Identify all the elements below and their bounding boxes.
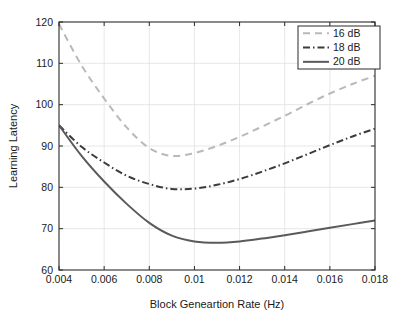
y-axis-title: Learning Latency <box>7 103 19 188</box>
y-tick-label: 90 <box>41 140 53 152</box>
legend-label-18-db: 18 dB <box>333 41 360 53</box>
legend-label-20-db: 20 dB <box>333 55 360 67</box>
x-axis-title: Block Geneartion Rate (Hz) <box>150 298 285 310</box>
x-tick-label: 0.016 <box>317 273 343 285</box>
y-tick-label: 80 <box>41 181 53 193</box>
y-tick-label: 60 <box>41 264 53 276</box>
x-tick-label: 0.012 <box>226 273 252 285</box>
y-tick-label: 120 <box>35 16 53 28</box>
y-tick-label: 100 <box>35 98 53 110</box>
chart-legend: 16 dB18 dB20 dB <box>298 26 380 69</box>
y-tick-label: 110 <box>36 57 53 69</box>
line-chart: 0.0040.0060.0080.010.0120.0140.0160.018 … <box>0 0 402 321</box>
x-tick-label: 0.014 <box>272 273 298 285</box>
y-tick-label: 70 <box>41 222 53 234</box>
x-tick-label: 0.008 <box>136 273 162 285</box>
x-tick-label: 0.006 <box>91 273 117 285</box>
chart-figure: 0.0040.0060.0080.010.0120.0140.0160.018 … <box>0 0 402 321</box>
x-tick-label: 0.018 <box>362 273 388 285</box>
x-tick-label: 0.01 <box>184 273 205 285</box>
legend-label-16-db: 16 dB <box>333 27 360 39</box>
